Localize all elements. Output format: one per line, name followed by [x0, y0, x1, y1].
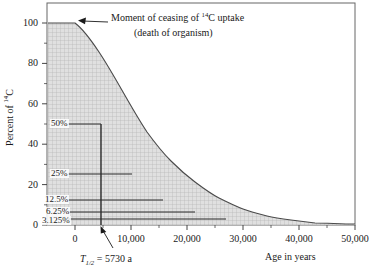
- x-axis-ticks: [75, 225, 355, 230]
- half-life-annotation: T1/2 = 5730 a: [80, 254, 132, 264]
- x-axis-title: Age in years: [265, 252, 316, 262]
- y-axis-title: Percent of 14C: [4, 68, 15, 168]
- y-tick-20: 20: [12, 180, 38, 190]
- x-tick-30000: 30,000: [217, 234, 269, 244]
- x-tick-40000: 40,000: [273, 234, 325, 244]
- percent-label-50: 50%: [50, 119, 69, 128]
- y-tick-60: 60: [12, 99, 38, 109]
- y-tick-100: 100: [12, 18, 38, 28]
- y-tick-80: 80: [12, 58, 38, 68]
- half-life-value: = 5730 a: [94, 253, 132, 264]
- x-tick-10000: 10,000: [105, 234, 157, 244]
- y-axis-title-element: C: [4, 89, 15, 96]
- y-axis-title-sup: 14: [2, 96, 9, 103]
- half-life-subscript: 1/2: [86, 259, 95, 266]
- ceasing-annotation-text-b: C uptake: [208, 12, 244, 23]
- percent-label-12-5: 12.5%: [44, 195, 69, 204]
- y-tick-40: 40: [12, 139, 38, 149]
- x-tick-20000: 20,000: [161, 234, 213, 244]
- percent-label-3-125: 3.125%: [41, 216, 71, 225]
- x-tick-0: 0: [55, 234, 95, 244]
- ceasing-annotation-text-a: Moment of ceasing of: [111, 12, 202, 23]
- radiocarbon-decay-figure: Percent of 14C 100 80 60 40 20 0 0 10,00…: [0, 0, 374, 275]
- ceasing-annotation-line2: (death of organism): [134, 28, 213, 38]
- x-tick-50000: 50,000: [329, 234, 374, 244]
- y-tick-0: 0: [12, 220, 38, 230]
- percent-label-25: 25%: [50, 169, 69, 178]
- ceasing-annotation-line1: Moment of ceasing of 14C uptake: [111, 13, 244, 23]
